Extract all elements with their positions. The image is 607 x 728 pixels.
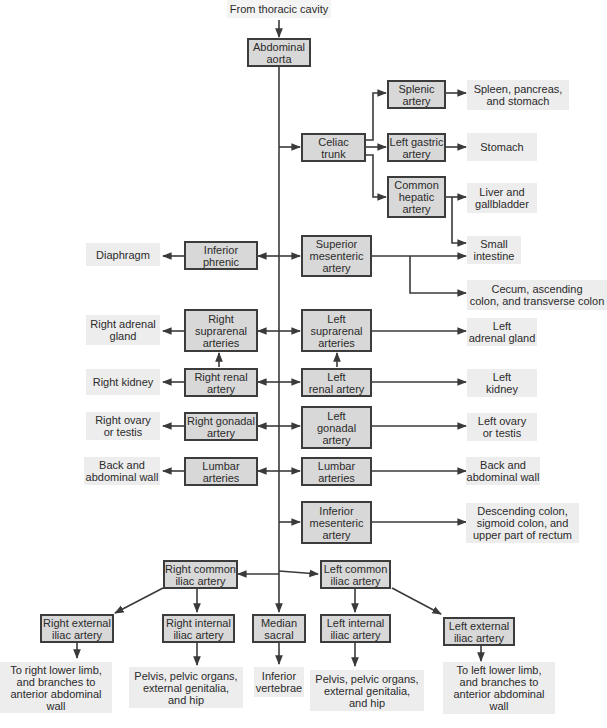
target-small-intestine: Small intestine bbox=[467, 236, 521, 264]
box-inferior-phrenic: Inferior phrenic bbox=[184, 241, 258, 270]
target-inferior-vertebrae: Inferior vertebrae bbox=[254, 667, 304, 697]
box-left-suprarenal-arteries: Left suprarenal arteries bbox=[301, 309, 372, 352]
box-lumbar-arteries-right: Lumbar arteries bbox=[184, 457, 258, 486]
box-left-gastric-artery: Left gastric artery bbox=[387, 133, 446, 162]
target-cecum-colon: Cecum, ascending colon, and transverse c… bbox=[467, 280, 607, 310]
source-thoracic-cavity: From thoracic cavity bbox=[227, 0, 331, 18]
box-lumbar-arteries-left: Lumbar arteries bbox=[301, 457, 372, 486]
box-abdominal-aorta: Abdominal aorta bbox=[247, 38, 311, 67]
target-right-kidney: Right kidney bbox=[86, 369, 160, 395]
target-right-lower-limb: To right lower limb, and branches to ant… bbox=[0, 662, 112, 713]
target-back-wall-left: Back and abdominal wall bbox=[466, 457, 540, 485]
target-right-adrenal-gland: Right adrenal gland bbox=[86, 315, 160, 345]
box-right-internal-iliac-artery: Right internal iliac artery bbox=[162, 614, 235, 643]
box-superior-mesenteric-artery: Superior mesenteric artery bbox=[301, 235, 372, 277]
box-splenic-artery: Splenic artery bbox=[387, 80, 446, 109]
target-left-lower-limb: To left lower limb, and branches to ante… bbox=[443, 662, 555, 714]
box-right-external-iliac-artery: Right external iliac artery bbox=[40, 614, 114, 643]
target-spleen-pancreas-stomach: Spleen, pancreas, and stomach bbox=[467, 80, 569, 110]
box-right-suprarenal-arteries: Right suprarenal arteries bbox=[184, 309, 258, 352]
target-left-adrenal-gland: Left adrenal gland bbox=[467, 318, 537, 346]
box-left-external-iliac-artery: Left external iliac artery bbox=[443, 617, 515, 646]
box-celiac-trunk: Celiac trunk bbox=[301, 133, 366, 162]
box-right-renal-artery: Right renal artery bbox=[184, 368, 258, 397]
box-median-sacral: Median sacral bbox=[252, 614, 306, 643]
box-left-renal-artery: Left renal artery bbox=[301, 368, 372, 397]
target-right-pelvis: Pelvis, pelvic organs, external genitali… bbox=[129, 667, 243, 708]
target-left-ovary-testis: Left ovary or testis bbox=[467, 413, 537, 441]
target-stomach: Stomach bbox=[467, 133, 537, 161]
target-back-wall-right: Back and abdominal wall bbox=[84, 457, 160, 485]
box-left-common-iliac-artery: Left common iliac artery bbox=[320, 560, 391, 589]
target-descending-colon: Descending colon, sigmoid colon, and upp… bbox=[466, 503, 579, 543]
box-common-hepatic-artery: Common hepatic artery bbox=[387, 176, 446, 218]
target-left-pelvis: Pelvis, pelvic organs, external genitali… bbox=[310, 670, 424, 711]
box-right-gonadal-artery: Right gonadal artery bbox=[184, 412, 258, 441]
box-left-gonadal-artery: Left gonadal artery bbox=[301, 406, 372, 449]
target-diaphragm: Diaphragm bbox=[86, 243, 160, 266]
box-right-common-iliac-artery: Right common iliac artery bbox=[163, 560, 238, 589]
target-liver-gallbladder: Liver and gallbladder bbox=[467, 183, 537, 213]
box-inferior-mesenteric-artery: Inferior mesenteric artery bbox=[301, 501, 372, 544]
target-left-kidney: Left kidney bbox=[467, 369, 537, 397]
box-left-internal-iliac-artery: Left internal iliac artery bbox=[320, 614, 391, 643]
target-right-ovary-testis: Right ovary or testis bbox=[86, 412, 160, 440]
